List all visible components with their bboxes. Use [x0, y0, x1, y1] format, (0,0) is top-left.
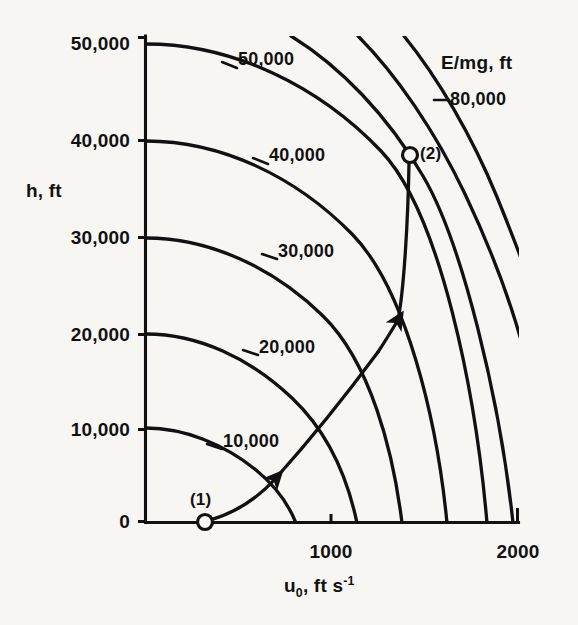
point-1-marker	[198, 515, 213, 530]
x-tick-label-2000: 2000	[478, 541, 558, 563]
point-1-label: (1)	[190, 490, 211, 510]
curve-label-80000: 80,000	[450, 89, 506, 110]
curve-label-40000: 40,000	[269, 145, 325, 166]
x-tick-label-1000: 1000	[291, 541, 371, 563]
x-axis-title-sub: 0	[296, 586, 303, 600]
point-2-marker	[403, 148, 418, 163]
y-tick-label-20000: 20,000	[18, 324, 130, 346]
point-2-label: (2)	[420, 144, 441, 164]
curve-label-50000: 50,000	[238, 49, 294, 70]
x-axis-title-exponent: -1	[343, 574, 354, 588]
curve-label-10000: 10,000	[223, 431, 279, 452]
curve-label-20000: 20,000	[259, 337, 315, 358]
x-axis-title-rest: , ft s	[303, 575, 343, 596]
y-axis-title: h, ft	[26, 180, 62, 202]
y-tick-label-0: 0	[18, 511, 130, 533]
y-tick-label-10000: 10,000	[18, 419, 130, 441]
x-axis-title: u0, ft s-1	[284, 574, 355, 600]
x-axis-title-main: u	[284, 575, 296, 596]
energy-height-chart: 50,000 40,000 30,000 20,000 10,000 0 h, …	[0, 0, 578, 625]
y-tick-label-30000: 30,000	[18, 227, 130, 249]
y-tick-label-50000: 50,000	[18, 33, 130, 55]
curve-family-title: E/mg, ft	[441, 52, 512, 74]
curve-label-30000: 30,000	[278, 241, 334, 262]
y-tick-label-40000: 40,000	[18, 130, 130, 152]
